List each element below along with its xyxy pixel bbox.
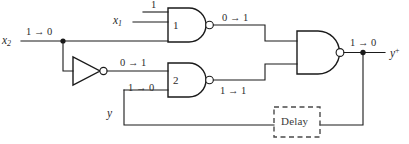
inverter-output-bubble: [100, 67, 107, 74]
circuit-svg-canvas: [0, 0, 409, 144]
wire-gate1-to-gate3: [214, 25, 298, 41]
label-output-y-plus: y+: [390, 47, 400, 59]
label-value-x1: 1: [151, 0, 156, 11]
label-value-gate2-lower-input: 1 → 0: [128, 83, 154, 94]
label-value-x2: 1 → 0: [26, 27, 52, 38]
label-feedback-y: y: [107, 108, 112, 120]
gate-2-output-bubble: [206, 76, 214, 84]
wire-gate2-to-gate3: [214, 64, 298, 80]
label-value-inverter-output: 0 → 1: [120, 58, 146, 69]
wire-delay-to-gate2: [124, 90, 274, 125]
label-gate-2-number: 2: [173, 75, 179, 86]
label-delay-element: Delay: [281, 116, 308, 127]
label-value-gate3-output: 1 → 0: [350, 38, 376, 49]
label-value-gate2-output: 1 → 1: [220, 86, 246, 97]
gate-3-nand-body: [297, 31, 340, 74]
inverter-triangle-body: [73, 57, 100, 85]
label-gate-1-number: 1: [173, 20, 179, 31]
wire-x2-to-inverter: [63, 41, 73, 71]
gate-1-output-bubble: [206, 21, 214, 29]
wire-feedback-to-delay: [320, 53, 363, 126]
label-value-gate1-output: 0 → 1: [222, 13, 248, 24]
label-input-x2: x2: [2, 35, 11, 48]
label-input-x1: x1: [113, 15, 122, 28]
logic-circuit-diagram: x1 1 x2 1 → 0 1 0 → 1 0 → 1 2 1 → 0 1 → …: [0, 0, 409, 144]
gate-3-output-bubble: [336, 49, 344, 57]
